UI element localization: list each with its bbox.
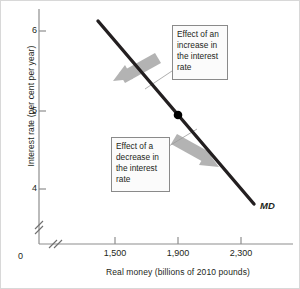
md-curve-label: MD (260, 200, 275, 211)
chart-figure: Interest rate (per cent per year) 6 5 4 … (0, 0, 300, 289)
origin-label: 0 (18, 251, 23, 261)
x-tick-label-1900: 1,900 (158, 248, 198, 258)
annotation-effect-of-increase: Effect of an increase in the interest ra… (172, 25, 228, 80)
x-tick-label-1500: 1,500 (95, 248, 135, 258)
x-axis-label: Real money (billions of 2010 pounds) (106, 267, 300, 277)
y-tick-label-5: 5 (23, 105, 37, 115)
y-tick-label-4: 4 (23, 183, 37, 193)
y-tick-label-6: 6 (23, 25, 37, 35)
annotation-effect-of-decrease: Effect of a decrease in the interest rat… (111, 137, 170, 192)
decrease-arrow-icon (171, 134, 219, 167)
equilibrium-point (174, 111, 183, 120)
x-tick-label-2300: 2,300 (221, 248, 261, 258)
